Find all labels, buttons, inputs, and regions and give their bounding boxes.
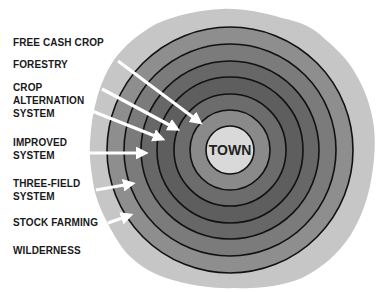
- label-three-field-system: THREE-FIELD SYSTEM: [13, 177, 80, 203]
- town-label: TOWN: [209, 142, 252, 158]
- label-wilderness: WILDERNESS: [13, 244, 81, 257]
- label-free-cash-crop: FREE CASH CROP: [13, 36, 104, 49]
- label-line: SYSTEM: [13, 107, 84, 120]
- label-line: CROP: [13, 81, 84, 94]
- label-line: STOCK FARMING: [13, 216, 98, 229]
- label-line: FREE CASH CROP: [13, 36, 104, 49]
- label-stock-farming: STOCK FARMING: [13, 216, 98, 229]
- label-line: ALTERNATION: [13, 94, 84, 107]
- label-improved-system: IMPROVED SYSTEM: [13, 136, 67, 162]
- label-line: SYSTEM: [13, 190, 80, 203]
- label-line: FORESTRY: [13, 58, 68, 71]
- label-line: IMPROVED: [13, 136, 67, 149]
- label-line: THREE-FIELD: [13, 177, 80, 190]
- zone-labels: FREE CASH CROP FORESTRY CROP ALTERNATION…: [0, 0, 120, 292]
- label-forestry: FORESTRY: [13, 58, 68, 71]
- label-crop-alternation-system: CROP ALTERNATION SYSTEM: [13, 81, 84, 120]
- label-line: SYSTEM: [13, 149, 67, 162]
- label-line: WILDERNESS: [13, 244, 81, 257]
